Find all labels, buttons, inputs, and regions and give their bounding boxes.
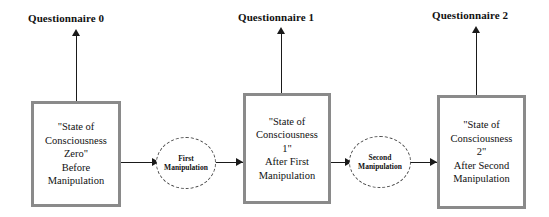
state-box-one-line-1: "State of bbox=[256, 115, 318, 129]
state-box-zero-line-1: "State of bbox=[45, 120, 107, 134]
arrowhead-up-icon-questionnaire1 bbox=[277, 27, 285, 34]
arrowhead-up-icon-questionnaire0 bbox=[72, 29, 80, 36]
state-box-one-line-3: 1" bbox=[256, 142, 318, 156]
state-box-zero: "State of Consciousness Zero" Before Man… bbox=[31, 101, 121, 207]
state-box-zero-text: "State of Consciousness Zero" Before Man… bbox=[45, 120, 107, 188]
manipulation-ellipse-second: Second Manipulation bbox=[349, 136, 411, 188]
state-box-one-line-2: Consciousness bbox=[256, 128, 318, 142]
state-box-two-text: "State of Consciousness 2" After Second … bbox=[451, 118, 513, 186]
manipulation-first-line-2: Manipulation bbox=[164, 163, 208, 172]
manipulation-second-line-2: Manipulation bbox=[358, 162, 402, 171]
questionnaire-2-label: Questionnaire 2 bbox=[432, 9, 508, 21]
state-box-two-line-3: 2" bbox=[451, 145, 513, 159]
state-box-one-line-5: Manipulation bbox=[256, 169, 318, 183]
manipulation-ellipse-first-text: First Manipulation bbox=[164, 154, 208, 172]
state-box-two-line-4: After Second bbox=[451, 159, 513, 173]
connector-box0-to-questionnaire0 bbox=[76, 35, 77, 102]
state-box-one-line-4: After First bbox=[256, 155, 318, 169]
state-box-zero-line-4: Before bbox=[45, 161, 107, 175]
connector-box2-to-questionnaire2 bbox=[476, 32, 477, 96]
questionnaire-1-label: Questionnaire 1 bbox=[238, 11, 314, 23]
questionnaire-0-label: Questionnaire 0 bbox=[28, 12, 104, 24]
connector-box1-to-questionnaire1 bbox=[281, 33, 282, 94]
state-box-zero-line-2: Consciousness bbox=[45, 134, 107, 148]
flow-diagram: Questionnaire 0 Questionnaire 1 Question… bbox=[0, 0, 549, 217]
manipulation-second-line-1: Second bbox=[358, 153, 402, 162]
state-box-two-line-2: Consciousness bbox=[451, 132, 513, 146]
arrowhead-up-icon-questionnaire2 bbox=[472, 26, 480, 33]
state-box-two-line-5: Manipulation bbox=[451, 172, 513, 186]
state-box-two-line-1: "State of bbox=[451, 118, 513, 132]
manipulation-ellipse-second-text: Second Manipulation bbox=[358, 153, 402, 171]
state-box-one: "State of Consciousness 1" After First M… bbox=[243, 93, 331, 204]
state-box-zero-line-3: Zero" bbox=[45, 147, 107, 161]
arrowhead-right-icon-box2 bbox=[430, 158, 437, 166]
manipulation-first-line-1: First bbox=[164, 154, 208, 163]
state-box-two: "State of Consciousness 2" After Second … bbox=[437, 95, 526, 209]
arrowhead-right-icon-box1 bbox=[236, 158, 243, 166]
connector-box0-to-manipulation1 bbox=[121, 162, 156, 163]
manipulation-ellipse-first: First Manipulation bbox=[156, 137, 216, 189]
state-box-zero-line-5: Manipulation bbox=[45, 174, 107, 188]
state-box-one-text: "State of Consciousness 1" After First M… bbox=[256, 115, 318, 183]
